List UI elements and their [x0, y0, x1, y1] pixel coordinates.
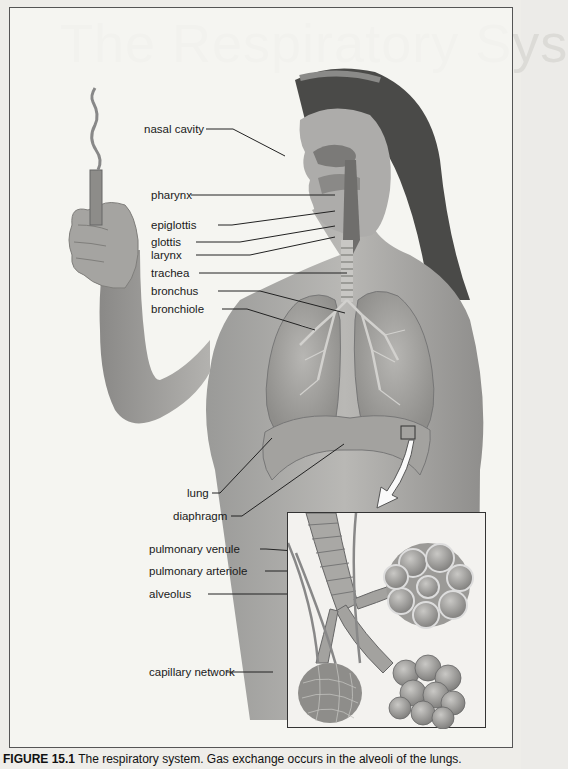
alveolar-sac — [389, 655, 465, 729]
label-bronchus: bronchus — [151, 285, 198, 298]
label-nasal-cavity: nasal cavity — [144, 123, 204, 136]
alveolar-sac-cross-section — [384, 543, 473, 628]
alveoli-detail-inset — [287, 512, 486, 728]
figure-number: FIGURE 15.1 — [3, 752, 75, 766]
label-lung: lung — [187, 487, 209, 500]
label-pulmonary-arteriole: pulmonary arteriole — [149, 565, 247, 578]
label-larynx: larynx — [151, 249, 182, 262]
label-bronchiole: bronchiole — [151, 303, 204, 316]
figure-caption-text: The respiratory system. Gas exchange occ… — [75, 752, 462, 766]
label-trachea: trachea — [151, 267, 189, 280]
label-glottis: glottis — [151, 236, 181, 249]
capillary-network-art — [298, 663, 362, 723]
label-pharynx: pharynx — [151, 189, 192, 202]
label-pulmonary-venule: pulmonary venule — [149, 543, 240, 556]
label-diaphragm: diaphragm — [173, 510, 227, 523]
label-capillary-network: capillary network — [149, 666, 235, 679]
label-epiglottis: epiglottis — [151, 219, 196, 232]
alveoli-detail-illustration — [288, 513, 487, 729]
label-alveolus: alveolus — [149, 588, 191, 601]
figure-caption: FIGURE 15.1 The respiratory system. Gas … — [3, 752, 462, 766]
